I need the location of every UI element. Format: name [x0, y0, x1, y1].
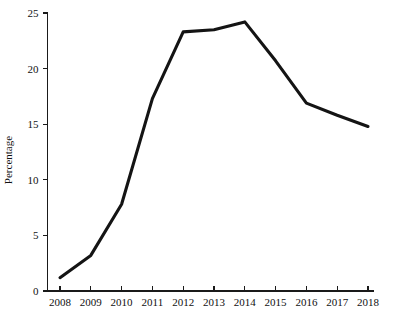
x-tick-label: 2010 [111, 296, 134, 308]
x-tick-label: 2016 [295, 296, 318, 308]
x-tick-label: 2018 [357, 296, 380, 308]
y-axis-ticks [43, 13, 48, 291]
chart-plot-area: 0510152025 20082009201020112012201320142… [0, 0, 397, 325]
x-tick-label: 2011 [142, 296, 164, 308]
x-tick-label: 2015 [265, 296, 288, 308]
y-tick-label: 15 [28, 118, 40, 130]
y-tick-label: 0 [33, 285, 39, 297]
y-axis-tick-labels: 0510152025 [28, 7, 40, 297]
y-tick-label: 25 [28, 7, 40, 19]
line-chart-figure: 0510152025 20082009201020112012201320142… [0, 0, 397, 325]
x-tick-label: 2012 [172, 296, 194, 308]
x-axis-tick-labels: 2008200920102011201220132014201520162017… [49, 296, 380, 308]
axis-group [48, 13, 375, 292]
x-tick-label: 2009 [80, 296, 103, 308]
x-tick-label: 2008 [49, 296, 72, 308]
y-axis-title: Percentage [2, 136, 14, 184]
data-series-group [60, 22, 368, 278]
x-tick-label: 2014 [234, 296, 257, 308]
x-tick-label: 2013 [203, 296, 226, 308]
y-tick-label: 5 [33, 229, 39, 241]
x-axis-ticks [60, 286, 368, 291]
y-tick-label: 10 [28, 174, 40, 186]
axis-lines [48, 13, 375, 292]
y-tick-label: 20 [28, 63, 40, 75]
x-tick-label: 2017 [326, 296, 349, 308]
data-line-percentage [60, 22, 368, 278]
